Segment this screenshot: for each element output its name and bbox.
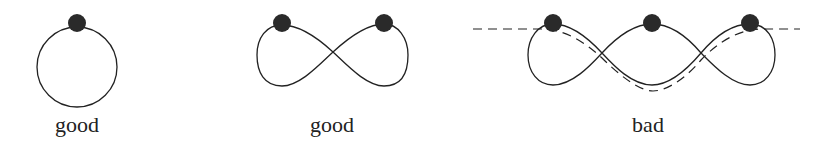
node-dot — [375, 14, 393, 32]
label-figure-eight: good — [310, 112, 354, 138]
node-dot — [643, 14, 661, 32]
node-dot — [741, 14, 759, 32]
figure-eight-loop — [257, 24, 408, 86]
circle-loop — [37, 27, 117, 107]
node-dot — [544, 14, 562, 32]
label-circle: good — [55, 112, 99, 138]
label-triple-loop: bad — [632, 112, 664, 138]
circle-figure — [37, 14, 117, 107]
node-dot — [68, 14, 86, 32]
diagram-canvas — [0, 0, 839, 150]
figure-eight-figure — [257, 14, 408, 86]
triple-loop-figure — [473, 14, 800, 91]
node-dot — [273, 14, 291, 32]
